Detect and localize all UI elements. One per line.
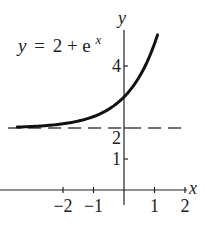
equation-lhs: y — [16, 35, 27, 56]
y-tick-label: 2 — [112, 128, 121, 148]
function-graph: y = 2 + e x x y −2−112124 — [0, 0, 205, 225]
axis-ticks: −2−112124 — [53, 56, 189, 216]
x-axis-label: x — [188, 178, 197, 198]
y-tick-label: 4 — [112, 56, 121, 76]
equation-exponent: x — [95, 32, 102, 47]
x-tick-label: 2 — [181, 196, 190, 216]
y-tick-label: 1 — [112, 149, 121, 169]
equation-label: y = 2 + e x — [16, 32, 102, 56]
equation-eq: = — [34, 35, 45, 56]
x-tick-label: 1 — [150, 196, 159, 216]
y-axis-label: y — [116, 8, 126, 28]
equation-rhs: 2 + e — [53, 35, 96, 56]
equation-rhs-base: 2 + e — [53, 35, 91, 56]
x-tick-label: −1 — [84, 196, 103, 216]
x-tick-label: −2 — [53, 196, 72, 216]
